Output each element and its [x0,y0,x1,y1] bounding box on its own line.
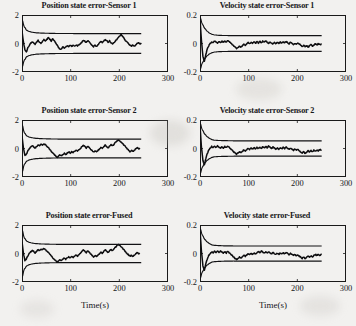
y-tick-label: -0.2 [184,173,197,182]
plot-area [200,120,346,177]
subplot-title: Position state error-Sensor 1 [0,1,178,10]
sigma-bound-line [200,51,322,70]
plot-area [200,15,346,72]
subplot: Position state error-Sensor 120-20100200… [0,0,178,105]
x-axis-tick-labels: 0100200300 [22,179,168,193]
y-tick-label: 0.2 [187,11,197,20]
subplot: Velocity state error-Fused0.20-0.2010020… [178,210,356,326]
sigma-bound-line [22,19,141,33]
x-tick-label: 100 [242,179,255,188]
x-tick-label: 100 [242,74,255,83]
sigma-bound-line [22,158,141,173]
sigma-bound-line [22,229,141,244]
y-tick-label: 0 [193,144,197,153]
tick-marks [22,15,168,72]
y-axis-tick-labels: 0.20-0.2 [178,120,198,177]
subplot-title: Velocity state error-Sensor 2 [178,106,356,115]
y-tick-label: 0.2 [187,221,197,230]
subplot-title: Position state error-Fused [0,211,178,220]
x-tick-label: 300 [340,74,353,83]
y-tick-label: -2 [12,173,19,182]
x-tick-label: 300 [162,179,175,188]
y-tick-label: 0 [15,144,19,153]
sigma-bound-line [22,53,141,67]
x-tick-label: 100 [64,284,77,293]
y-axis-tick-labels: 20-2 [0,15,20,72]
tick-marks [22,120,168,177]
subplot: Position state error-Fused20-20100200300… [0,210,178,326]
plot-area [22,225,168,282]
sigma-bound-line [200,228,322,246]
x-tick-label: 200 [113,74,126,83]
plot-canvas [22,15,168,72]
x-tick-label: 300 [162,284,175,293]
y-axis-tick-labels: 0.20-0.2 [178,15,198,72]
x-tick-label: 100 [64,179,77,188]
tick-marks [200,120,346,177]
x-tick-label: 0 [20,284,24,293]
error-signal-line [22,242,140,262]
y-axis-tick-labels: 20-2 [0,120,20,177]
figure-grid: Position state error-Sensor 120-20100200… [0,0,356,326]
sigma-bound-line [200,17,322,36]
subplot: Position state error-Sensor 220-20100200… [0,105,178,210]
sigma-bound-line [22,124,141,139]
y-tick-label: 2 [15,116,19,125]
y-tick-label: -2 [12,68,19,77]
subplot-title: Position state error-Sensor 2 [0,106,178,115]
subplot: Velocity state error-Sensor 10.20-0.2010… [178,0,356,105]
sigma-bound-line [22,263,141,278]
x-tick-label: 200 [291,74,304,83]
x-tick-label: 300 [162,74,175,83]
plot-area [200,225,346,282]
error-signal-line [200,126,322,165]
x-axis-tick-labels: 0100200300 [200,284,346,298]
subplot-title: Velocity state error-Fused [178,211,356,220]
x-tick-label: 0 [198,179,202,188]
x-axis-tick-labels: 0100200300 [200,179,346,193]
y-tick-label: 2 [15,11,19,20]
x-tick-label: 0 [198,284,202,293]
tick-marks [22,225,168,282]
y-tick-label: 0.2 [187,116,197,125]
x-axis-title: Time(s) [200,300,346,310]
y-tick-label: 2 [15,221,19,230]
plot-area [22,120,168,177]
error-signal-line [200,18,322,61]
x-axis-tick-labels: 0100200300 [22,74,168,88]
subplot-title: Velocity state error-Sensor 1 [178,1,356,10]
x-tick-label: 200 [291,284,304,293]
y-tick-label: 0 [193,39,197,48]
x-axis-tick-labels: 0100200300 [22,284,168,298]
subplot: Velocity state error-Sensor 20.20-0.2010… [178,105,356,210]
y-axis-tick-labels: 0.20-0.2 [178,225,198,282]
y-tick-label: -2 [12,278,19,287]
x-tick-label: 100 [242,284,255,293]
y-tick-label: 0 [15,39,19,48]
x-tick-label: 200 [291,179,304,188]
x-tick-label: 300 [340,179,353,188]
sigma-bound-line [200,156,322,174]
x-tick-label: 300 [340,284,353,293]
plot-canvas [200,120,346,177]
x-tick-label: 0 [20,179,24,188]
y-axis-tick-labels: 20-2 [0,225,20,282]
x-axis-tick-labels: 0100200300 [200,74,346,88]
plot-canvas [22,120,168,177]
plot-canvas [22,225,168,282]
sigma-bound-line [200,123,322,141]
x-axis-title: Time(s) [22,300,168,310]
error-signal-line [200,229,322,270]
plot-canvas [200,15,346,72]
y-tick-label: 0 [15,249,19,258]
x-tick-label: 100 [64,74,77,83]
plot-canvas [200,225,346,282]
x-tick-label: 0 [20,74,24,83]
tick-marks [200,225,346,282]
y-tick-label: 0 [193,249,197,258]
y-tick-label: -0.2 [184,68,197,77]
x-tick-label: 0 [198,74,202,83]
x-tick-label: 200 [113,284,126,293]
plot-area [22,15,168,72]
x-tick-label: 200 [113,179,126,188]
